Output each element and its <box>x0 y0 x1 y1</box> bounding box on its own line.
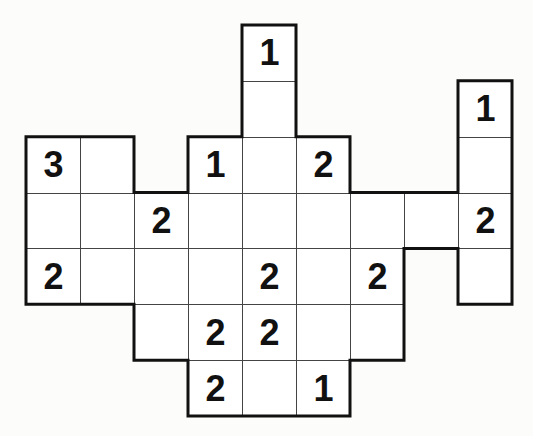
clue-cell[interactable]: 1 <box>296 360 351 417</box>
empty-cell[interactable] <box>26 193 81 250</box>
puzzle-board: 11312222222221 <box>0 0 533 436</box>
empty-cell[interactable] <box>296 304 351 361</box>
empty-cell[interactable] <box>296 248 351 305</box>
empty-cell[interactable] <box>458 137 513 194</box>
clue-cell[interactable]: 2 <box>242 248 297 305</box>
clue-cell[interactable]: 1 <box>188 137 243 194</box>
empty-cell[interactable] <box>242 137 297 194</box>
empty-cell[interactable] <box>404 193 459 250</box>
empty-cell[interactable] <box>242 360 297 417</box>
empty-cell[interactable] <box>458 248 513 305</box>
clue-cell[interactable]: 1 <box>458 81 513 138</box>
clue-cell[interactable]: 2 <box>134 193 189 250</box>
clue-cell[interactable]: 2 <box>458 193 513 250</box>
empty-cell[interactable] <box>350 304 405 361</box>
clue-cell[interactable]: 2 <box>242 304 297 361</box>
empty-cell[interactable] <box>80 248 135 305</box>
empty-cell[interactable] <box>242 81 297 138</box>
clue-cell[interactable]: 2 <box>188 360 243 417</box>
clue-cell[interactable]: 2 <box>26 248 81 305</box>
empty-cell[interactable] <box>188 248 243 305</box>
empty-cell[interactable] <box>296 193 351 250</box>
clue-cell[interactable]: 2 <box>296 137 351 194</box>
empty-cell[interactable] <box>80 137 135 194</box>
empty-cell[interactable] <box>80 193 135 250</box>
clue-cell[interactable]: 2 <box>188 304 243 361</box>
clue-cell[interactable]: 3 <box>26 137 81 194</box>
empty-cell[interactable] <box>134 304 189 361</box>
empty-cell[interactable] <box>350 193 405 250</box>
clue-cell[interactable]: 2 <box>350 248 405 305</box>
clue-cell[interactable]: 1 <box>242 25 297 82</box>
empty-cell[interactable] <box>134 248 189 305</box>
empty-cell[interactable] <box>188 193 243 250</box>
empty-cell[interactable] <box>242 193 297 250</box>
